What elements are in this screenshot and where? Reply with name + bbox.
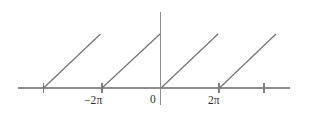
x-axis-label-minus-two-pi: −2π [84,95,102,107]
sawtooth-ramp-3 [161,34,218,88]
sawtooth-ramp-2 [102,34,160,88]
sawtooth-ramp-4 [220,34,277,88]
x-axis-label-zero: 0 [150,94,156,106]
sawtooth-wave-figure: −2π 0 2π [0,0,311,117]
sawtooth-ramp-1 [44,34,101,88]
x-axis-label-two-pi: 2π [208,95,220,107]
